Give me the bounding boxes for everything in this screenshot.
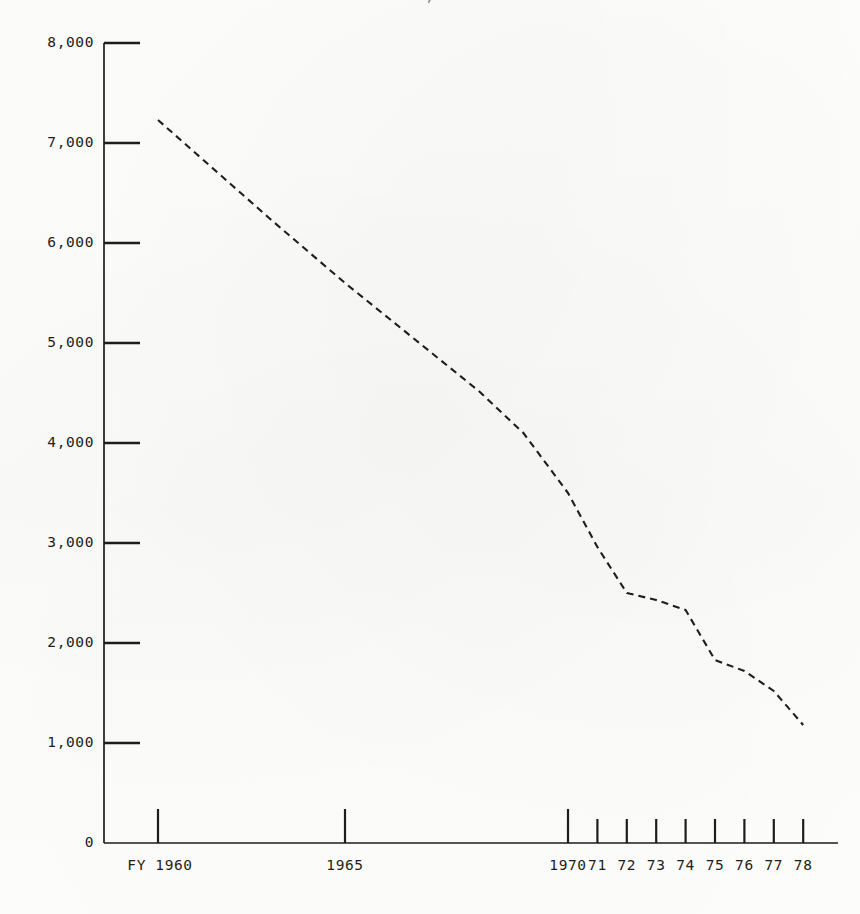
y-tick-label: 4,000 [8, 434, 94, 450]
chart-page: , 01,0002,0003,0004,0005,0006,0007,0008,… [0, 0, 860, 914]
y-tick-label: 1,000 [8, 734, 94, 750]
y-tick-label: 7,000 [8, 134, 94, 150]
y-tick-label: 0 [8, 834, 94, 850]
y-tick-label: 2,000 [8, 634, 94, 650]
data-series-line [158, 120, 803, 725]
y-tick-marks [104, 43, 140, 743]
x-tick-label: 78 [748, 857, 858, 873]
x-tick-label: FY 1960 [105, 857, 215, 873]
x-tick-label: 1965 [290, 857, 400, 873]
y-tick-label: 3,000 [8, 534, 94, 550]
y-tick-label: 6,000 [8, 234, 94, 250]
y-tick-label: 8,000 [8, 34, 94, 50]
y-tick-label: 5,000 [8, 334, 94, 350]
line-chart-plot [0, 0, 860, 914]
x-tick-marks [158, 809, 803, 843]
